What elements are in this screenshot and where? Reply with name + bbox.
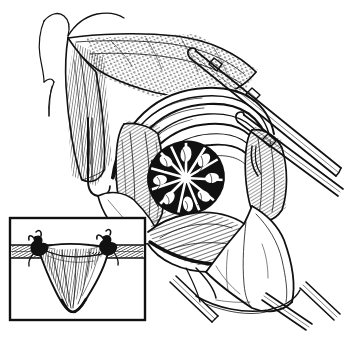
- surgical-illustration: [0, 0, 345, 338]
- detail-inset: [10, 218, 145, 320]
- figure-root: Surgical exposure line drawing: [0, 0, 345, 338]
